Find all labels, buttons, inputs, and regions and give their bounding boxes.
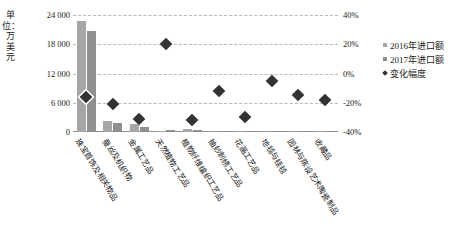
bar-2017 <box>299 131 308 132</box>
bar-2016 <box>77 21 86 132</box>
y-axis-left-ticks: 06 00012 00018 00024 000 <box>20 15 70 132</box>
bar-2016 <box>130 124 139 132</box>
y-axis-title: 单位：万美元 <box>2 10 18 63</box>
x-tick-label: 天然植物工艺品 <box>153 136 192 189</box>
bar-2016 <box>183 129 192 132</box>
bar-2016 <box>315 131 324 132</box>
x-tick-label: 植物纤维编织工艺品 <box>180 136 227 203</box>
y-axis-right-ticks: -40%-20%0%20%40% <box>343 15 387 132</box>
bar-2017 <box>113 123 122 132</box>
bar-2017 <box>246 131 255 132</box>
bar-group <box>209 15 228 132</box>
bar-2017 <box>166 130 175 132</box>
x-tick-label: 蚕丝及机织物 <box>100 136 135 183</box>
y-tick-label: 18 000 <box>47 39 70 49</box>
legend-item[interactable]: 2017年进口额 <box>383 52 444 66</box>
x-tick-label: 园林与陈设艺术陶瓷制品 <box>286 136 342 216</box>
y2-tick-label: 40% <box>343 10 359 20</box>
legend-label: 2017年进口额 <box>390 53 444 66</box>
bar-group <box>156 15 175 132</box>
y-tick-label: 0 <box>66 127 70 137</box>
y2-tick-label: -40% <box>343 127 361 137</box>
y2-tick-label: 20% <box>343 39 359 49</box>
legend-item[interactable]: 2016年进口额 <box>383 38 444 52</box>
square-icon <box>383 57 387 61</box>
bar-2017 <box>193 130 202 132</box>
x-tick-label: 珠宝首饰及相关物品 <box>74 136 121 203</box>
y-tick-label: 24 000 <box>47 10 70 20</box>
bar-2017 <box>87 31 96 132</box>
legend-label: 变化幅度 <box>390 67 426 80</box>
bar-2016 <box>262 131 271 132</box>
bar-2017 <box>219 131 228 132</box>
bar-2016 <box>209 131 218 132</box>
x-tick-label: 金属工艺品 <box>127 136 158 176</box>
y2-tick-label: -20% <box>343 98 361 108</box>
bar-2016 <box>236 131 245 132</box>
bar-group <box>77 15 96 132</box>
y2-tick-label: 0% <box>343 69 354 79</box>
plot-area <box>73 15 338 132</box>
square-icon <box>383 43 387 47</box>
x-tick-label: 收藏品 <box>312 136 334 162</box>
legend-label: 2016年进口额 <box>390 39 444 52</box>
bar-2017 <box>140 127 149 132</box>
bar-group <box>103 15 122 132</box>
y-tick-label: 12 000 <box>47 69 70 79</box>
bar-2017 <box>325 131 334 132</box>
bar-2017 <box>272 131 281 132</box>
bar-2016 <box>289 131 298 132</box>
x-tick-label: 花画工艺品 <box>233 136 264 176</box>
chart-legend: 2016年进口额2017年进口额变化幅度 <box>383 38 444 80</box>
bar-group <box>289 15 308 132</box>
x-tick-label: 抽纱刺绣工艺品 <box>206 136 245 189</box>
bar-2016 <box>156 131 165 132</box>
diamond-icon <box>382 70 388 76</box>
x-tick-label: 地毯与挂毯 <box>259 136 290 176</box>
legend-item[interactable]: 变化幅度 <box>383 66 444 80</box>
combo-chart: 单位：万美元 06 00012 00018 00024 000 -40%-20%… <box>0 0 453 237</box>
bar-2016 <box>103 121 112 132</box>
y-tick-label: 6 000 <box>51 98 70 108</box>
bar-group <box>315 15 334 132</box>
